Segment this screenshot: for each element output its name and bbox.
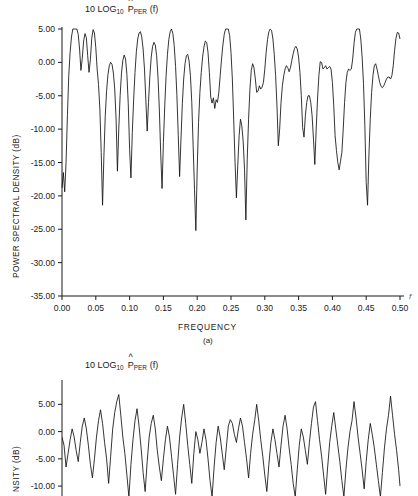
panel-a-data-line <box>62 29 400 231</box>
panel-a-y-tick-label: -35.00 <box>31 291 56 301</box>
panel-b-y-axis-title: NSITY (dB) <box>12 446 21 492</box>
panel-a-x-tick-label: 0.30 <box>256 303 273 313</box>
panel-a-y-tick-label: -25.00 <box>31 224 56 234</box>
panel-a-x-tick-label: 0.35 <box>290 303 307 313</box>
panel-a-plot: 5.000.00-5.00-10.00-15.00-20.00-25.00-30… <box>0 0 418 352</box>
panel-a-x-tick-label: 0.25 <box>223 303 240 313</box>
figure-page: 10 LOG10^PPER(f) 5.000.00-5.00-10.00-15.… <box>0 0 418 496</box>
panel-a-y-tick-label: -10.00 <box>31 124 56 134</box>
panel-a-x-tick-label: 0.45 <box>358 303 375 313</box>
panel-a-x-tick-label: 0.00 <box>54 303 71 313</box>
panel-a-y-tick-label: -5.00 <box>35 91 55 101</box>
panel-b-y-tick-label: -5.00 <box>35 454 55 464</box>
panel-a-x-tick-label: 0.50 <box>392 303 409 313</box>
panel-b-plot: 5.000.00-5.00-10.00 <box>0 352 418 496</box>
panel-a-x-axis-title: FREQUENCY <box>178 322 237 332</box>
panel-a-caption: (a) <box>203 336 213 345</box>
panel-a: 10 LOG10^PPER(f) 5.000.00-5.00-10.00-15.… <box>0 0 418 352</box>
panel-a-y-tick-label: -15.00 <box>31 158 56 168</box>
panel-b-data-line <box>62 395 400 496</box>
panel-b: 10 LOG10^PPER(f) 5.000.00-5.00-10.00 NSI… <box>0 352 418 496</box>
panel-a-x-tick-label: 0.20 <box>189 303 206 313</box>
panel-a-x-tick-label: 0.10 <box>121 303 138 313</box>
panel-a-y-axis-title: POWER SPECTRAL DENSITY (dB) <box>12 134 21 278</box>
panel-a-x-tick-label: 0.40 <box>324 303 341 313</box>
panel-a-y-tick-label: -20.00 <box>31 191 56 201</box>
panel-a-y-tick-label: 5.00 <box>38 24 55 34</box>
panel-b-y-tick-label: -10.00 <box>31 481 56 491</box>
panel-a-y-tick-label: -30.00 <box>31 258 56 268</box>
panel-a-x-tick-label: 0.15 <box>155 303 172 313</box>
panel-b-y-tick-label: 0.00 <box>38 427 55 437</box>
frequency-variable-a: f <box>409 292 411 301</box>
panel-a-y-tick-label: 0.00 <box>38 57 55 67</box>
panel-a-x-tick-label: 0.05 <box>87 303 104 313</box>
panel-b-y-tick-label: 5.00 <box>38 399 55 409</box>
